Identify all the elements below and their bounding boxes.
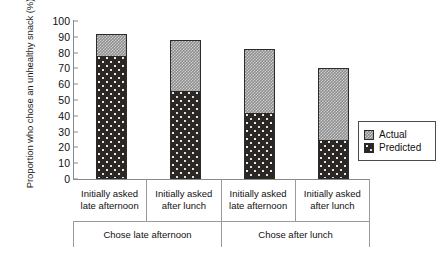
y-axis-tick: 20 <box>58 141 74 153</box>
y-axis-tick-mark <box>74 68 78 69</box>
legend-swatch-icon <box>364 143 374 153</box>
group-label-row: Chose late afternoonChose after lunch <box>73 221 370 247</box>
bar-2 <box>170 40 201 179</box>
bar-segment-predicted <box>170 91 201 179</box>
y-axis-tick-mark <box>74 131 78 132</box>
group-label-2: Chose after lunch <box>222 221 370 247</box>
legend-item-actual: Actual <box>364 129 431 140</box>
y-axis-tick-label: 100 <box>52 15 74 27</box>
category-label-row: Initially askedlate afternoonInitially a… <box>73 179 370 222</box>
y-axis-tick-mark <box>74 84 78 85</box>
plot-area: 0102030405060708090100 <box>74 21 370 179</box>
y-axis-tick-label: 10 <box>58 157 74 169</box>
bar-segment-actual <box>170 40 201 91</box>
bar-3 <box>244 49 275 179</box>
category-label-line: late afternoon <box>229 200 287 213</box>
bar-chart: Proportion who chose an unhealthy snack … <box>0 0 442 254</box>
y-axis-tick: 40 <box>58 110 74 122</box>
y-axis-title: Proportion who chose an unhealthy snack … <box>24 0 35 189</box>
chart-legend: ActualPredicted <box>358 121 436 161</box>
y-axis-tick-label: 70 <box>58 62 74 74</box>
category-label-line: Initially asked <box>155 188 212 201</box>
legend-swatch-icon <box>364 130 374 140</box>
category-label-2: Initially askedafter lunch <box>147 179 221 221</box>
y-axis-tick-mark <box>74 147 78 148</box>
y-axis-tick: 70 <box>58 62 74 74</box>
bar-segment-actual <box>244 49 275 112</box>
bar-segment-actual <box>318 68 349 139</box>
y-axis-tick-label: 60 <box>58 78 74 90</box>
y-axis-tick-mark <box>74 100 78 101</box>
y-axis-tick: 30 <box>58 126 74 138</box>
y-axis-tick: 10 <box>58 157 74 169</box>
group-label-1: Chose late afternoon <box>73 221 222 247</box>
y-axis-tick-mark <box>74 36 78 37</box>
y-axis-tick-label: 50 <box>58 94 74 106</box>
category-label-4: Initially askedafter lunch <box>296 179 370 221</box>
category-label-line: Initially asked <box>230 188 287 201</box>
bar-segment-actual <box>96 34 127 56</box>
category-label-1: Initially askedlate afternoon <box>73 179 147 221</box>
bar-segment-predicted <box>318 140 349 180</box>
y-axis-tick-mark <box>74 163 78 164</box>
y-axis-tick-label: 80 <box>58 47 74 59</box>
category-label-line: after lunch <box>310 200 354 213</box>
y-axis-tick-label: 30 <box>58 126 74 138</box>
y-axis-tick-mark <box>74 115 78 116</box>
bar-segment-predicted <box>244 113 275 179</box>
y-axis-tick-label: 40 <box>58 110 74 122</box>
legend-item-predicted: Predicted <box>364 142 431 153</box>
y-axis-tick: 60 <box>58 78 74 90</box>
y-axis-tick: 80 <box>58 47 74 59</box>
y-axis-tick: 50 <box>58 94 74 106</box>
y-axis-tick: 90 <box>58 31 74 43</box>
category-label-line: late afternoon <box>81 200 139 213</box>
category-label-line: Initially asked <box>81 188 138 201</box>
y-axis-tick-mark <box>74 21 78 22</box>
y-axis-tick-label: 20 <box>58 141 74 153</box>
category-label-line: after lunch <box>162 200 206 213</box>
y-axis-tick: 100 <box>52 15 74 27</box>
y-axis-tick-mark <box>74 52 78 53</box>
bar-4 <box>318 68 349 179</box>
bar-1 <box>96 34 127 179</box>
category-label-line: Initially asked <box>304 188 361 201</box>
y-axis-tick-label: 90 <box>58 31 74 43</box>
legend-label: Predicted <box>379 142 421 153</box>
bar-segment-predicted <box>96 56 127 179</box>
legend-label: Actual <box>379 129 407 140</box>
category-label-3: Initially askedlate afternoon <box>222 179 296 221</box>
